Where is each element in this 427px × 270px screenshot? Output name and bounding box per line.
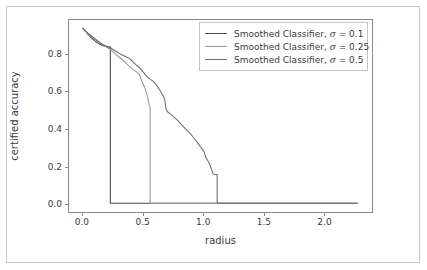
y-tick-mark [65, 54, 68, 55]
legend-line-icon [205, 59, 227, 60]
x-tick-label: 0.5 [135, 217, 149, 227]
x-tick-mark [203, 213, 204, 216]
y-tick-mark [65, 167, 68, 168]
y-tick-label: 0.0 [34, 199, 62, 209]
legend-item: Smoothed Classifier, σ = 0.5 [205, 53, 361, 66]
y-tick-mark [65, 129, 68, 130]
y-tick-label: 0.2 [34, 162, 62, 172]
x-tick-mark [82, 213, 83, 216]
legend-item-label: Smoothed Classifier, σ = 0.1 [234, 29, 363, 39]
legend-item-label: Smoothed Classifier, σ = 0.5 [234, 55, 363, 65]
x-tick-mark [264, 213, 265, 216]
y-axis-label: certified accuracy [9, 71, 20, 161]
y-tick-label: 0.8 [34, 49, 62, 59]
x-tick-label: 1.5 [257, 217, 271, 227]
y-tick-mark [65, 91, 68, 92]
x-tick-mark [324, 213, 325, 216]
legend-line-icon [205, 33, 227, 34]
x-tick-label: 1.0 [196, 217, 210, 227]
x-axis-label: radius [68, 235, 373, 246]
x-tick-label: 2.0 [317, 217, 331, 227]
x-tick-mark [143, 213, 144, 216]
x-tick-label: 0.0 [75, 217, 89, 227]
y-tick-label: 0.4 [34, 124, 62, 134]
y-tick-mark [65, 204, 68, 205]
legend-item-label: Smoothed Classifier, σ = 0.25 [234, 42, 369, 52]
figure-root: 0.00.51.01.52.0 0.00.20.40.60.8 radius c… [0, 0, 427, 270]
legend-line-icon [205, 46, 227, 47]
legend-item: Smoothed Classifier, σ = 0.1 [205, 27, 361, 40]
y-tick-label: 0.6 [34, 86, 62, 96]
legend-item: Smoothed Classifier, σ = 0.25 [205, 40, 361, 53]
legend: Smoothed Classifier, σ = 0.1Smoothed Cla… [199, 22, 368, 71]
